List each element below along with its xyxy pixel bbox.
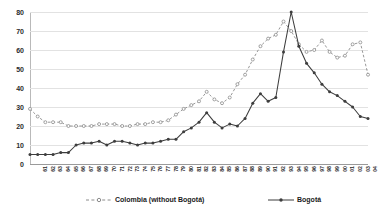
data-point [320,83,323,86]
x-tick-88: 88 [250,166,256,192]
data-point [159,140,162,143]
data-point [167,138,170,141]
data-point [290,30,293,33]
data-point [290,11,293,14]
x-axis-line [30,164,368,165]
data-point [36,153,39,156]
x-tick-96: 96 [312,166,318,192]
data-point [236,83,239,86]
data-point [351,106,354,109]
data-point [128,125,131,128]
data-point [205,90,208,93]
data-point [29,107,32,110]
data-point [174,138,177,141]
x-tick-75: 75 [151,166,157,192]
data-point [274,96,277,99]
x-tick-98: 98 [327,166,333,192]
data-point [320,39,323,42]
y-tick-10: 10 [0,142,24,149]
data-point [174,113,177,116]
x-tick-99: 99 [335,166,341,192]
data-point [205,111,208,114]
x-tick-87: 87 [243,166,249,192]
data-point [159,121,162,124]
data-point [52,153,55,156]
data-point [313,71,316,74]
x-axis-tick-labels: 6162636465666768697071727374757677787980… [30,166,368,192]
y-tick-0: 0 [0,161,24,168]
data-point [228,123,231,126]
data-point [151,142,154,145]
x-tick-72: 72 [128,166,134,192]
data-point [313,49,316,52]
data-point [67,125,70,128]
x-tick-93: 93 [289,166,295,192]
data-point [228,96,231,99]
data-point [128,142,131,145]
data-point [90,142,93,145]
x-tick-95: 95 [304,166,310,192]
x-tick-81: 81 [197,166,203,192]
data-point [121,125,124,128]
y-tick-20: 20 [0,123,24,130]
x-tick-83: 83 [212,166,218,192]
data-point [113,123,116,126]
x-tick-71: 71 [120,166,126,192]
legend-label-bogota: Bogotá [297,196,321,204]
data-point [343,100,346,103]
plot-area [30,12,368,164]
x-tick-67: 67 [89,166,95,192]
x-tick-69: 69 [104,166,110,192]
series-colombia [29,20,370,128]
x-tick-97: 97 [320,166,326,192]
data-point [221,126,224,129]
data-point [98,123,101,126]
x-tick-86: 86 [235,166,241,192]
legend-swatch-bogota [268,196,294,204]
data-point [44,121,47,124]
data-point [267,100,270,103]
x-tick-62: 62 [51,166,57,192]
data-point [144,142,147,145]
x-tick-74: 74 [143,166,149,192]
x-tick-65: 65 [74,166,80,192]
y-tick-40: 40 [0,85,24,92]
data-point [82,142,85,145]
data-point [151,121,154,124]
data-point [367,73,370,76]
x-tick-78: 78 [174,166,180,192]
x-tick-79: 79 [181,166,187,192]
legend-label-colombia: Colombia (without Bogotá) [115,196,204,204]
data-point [190,104,193,107]
data-point [136,123,139,126]
x-tick-73: 73 [135,166,141,192]
x-tick-70: 70 [112,166,118,192]
data-point [198,121,201,124]
legend-item-bogota: Bogotá [268,196,321,204]
x-tick-01: 01 [350,166,356,192]
data-point [52,121,55,124]
data-point [336,94,339,97]
data-point [59,121,62,124]
x-tick-89: 89 [258,166,264,192]
data-point [213,121,216,124]
data-point [236,125,239,128]
data-point [44,153,47,156]
x-tick-68: 68 [97,166,103,192]
x-tick-92: 92 [281,166,287,192]
y-tick-30: 30 [0,104,24,111]
x-tick-64: 64 [66,166,72,192]
data-point [59,151,62,154]
data-point [167,119,170,122]
data-point [144,123,147,126]
data-point [359,115,362,118]
data-point [274,33,277,36]
data-point [29,153,32,156]
data-point [244,73,247,76]
data-point [198,100,201,103]
x-tick-02: 02 [358,166,364,192]
data-point [182,107,185,110]
y-tick-70: 70 [0,28,24,35]
y-tick-50: 50 [0,66,24,73]
